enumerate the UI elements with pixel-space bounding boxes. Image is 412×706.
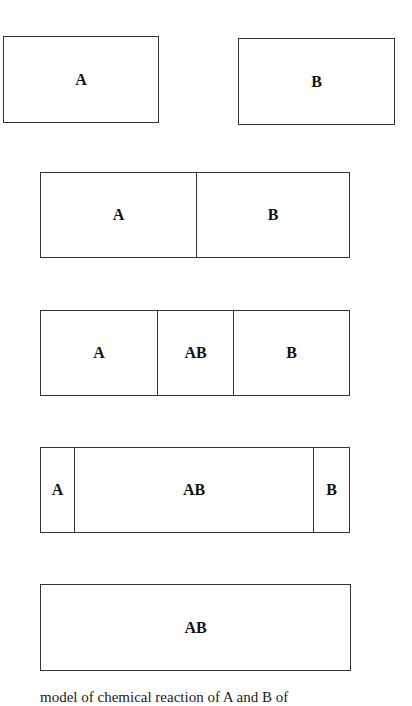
- cell-a: A: [41, 173, 196, 257]
- box-partial-mix: A AB B: [40, 310, 350, 396]
- cell-ab: AB: [74, 448, 313, 532]
- cell-a: A: [41, 311, 157, 395]
- cell-a: A: [41, 448, 74, 532]
- cell-b: B: [196, 173, 349, 257]
- box-fully-mixed: AB: [40, 584, 351, 671]
- box-contact: A B: [40, 172, 350, 258]
- box-b-separate: B: [238, 38, 395, 125]
- box-mostly-mixed: A AB B: [40, 447, 350, 533]
- cell-ab: AB: [41, 585, 350, 670]
- cell-a: A: [4, 37, 158, 122]
- cell-b: B: [239, 39, 394, 124]
- box-a-separate: A: [3, 36, 159, 123]
- cell-b: B: [313, 448, 349, 532]
- cell-b: B: [233, 311, 349, 395]
- cell-ab: AB: [157, 311, 233, 395]
- figure-caption: model of chemical reaction of A and B of: [40, 688, 412, 706]
